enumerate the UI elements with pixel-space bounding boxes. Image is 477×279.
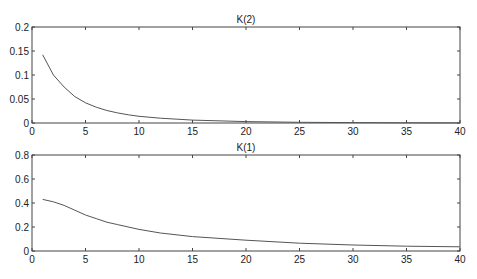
x-tick-label: 15 bbox=[187, 254, 199, 265]
x-tick-label: 25 bbox=[294, 254, 306, 265]
x-tick-label: 5 bbox=[83, 254, 89, 265]
x-tick-label: 40 bbox=[454, 254, 466, 265]
x-tick-label: 15 bbox=[187, 126, 199, 137]
x-tick-label: 0 bbox=[29, 254, 35, 265]
y-tick-label: 0.1 bbox=[15, 70, 29, 81]
x-tick-label: 40 bbox=[454, 126, 466, 137]
y-tick-label: 0.8 bbox=[15, 150, 29, 161]
y-tick-label: 0.15 bbox=[10, 46, 30, 57]
x-tick-label: 30 bbox=[347, 254, 359, 265]
x-tick-label: 30 bbox=[347, 126, 359, 137]
axes-frame bbox=[32, 155, 460, 251]
series-line-k2 bbox=[43, 55, 460, 123]
x-tick-label: 20 bbox=[240, 126, 252, 137]
y-tick-label: 0 bbox=[23, 246, 29, 257]
axes-frame bbox=[32, 27, 460, 123]
y-tick-label: 0.05 bbox=[10, 94, 30, 105]
chart-figure: K(2)051015202530354000.050.10.150.2K(1)0… bbox=[0, 0, 477, 279]
y-tick-label: 0.2 bbox=[15, 222, 29, 233]
plot-title: K(1) bbox=[237, 142, 256, 153]
y-tick-label: 0.4 bbox=[15, 198, 29, 209]
x-tick-label: 10 bbox=[133, 126, 145, 137]
x-tick-label: 35 bbox=[401, 254, 413, 265]
x-tick-label: 20 bbox=[240, 254, 252, 265]
plot-k2: K(2)051015202530354000.050.10.150.2 bbox=[10, 14, 466, 137]
series-line-k1 bbox=[43, 199, 460, 246]
x-tick-label: 0 bbox=[29, 126, 35, 137]
plot-title: K(2) bbox=[237, 14, 256, 25]
y-tick-label: 0 bbox=[23, 118, 29, 129]
x-tick-label: 25 bbox=[294, 126, 306, 137]
x-tick-label: 10 bbox=[133, 254, 145, 265]
y-tick-label: 0.6 bbox=[15, 174, 29, 185]
x-tick-label: 35 bbox=[401, 126, 413, 137]
x-tick-label: 5 bbox=[83, 126, 89, 137]
y-tick-label: 0.2 bbox=[15, 22, 29, 33]
plot-k1: K(1)051015202530354000.20.40.60.8 bbox=[15, 142, 466, 265]
